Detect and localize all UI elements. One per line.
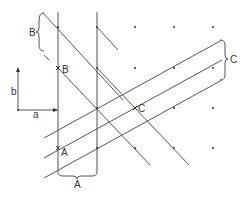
lattice-dot xyxy=(173,147,175,149)
label-axis-b: b xyxy=(11,86,17,97)
lattice-dot xyxy=(134,147,136,149)
label-a-bracket: A xyxy=(74,179,81,190)
lattice-dot xyxy=(96,67,98,69)
label-b-bracket: B xyxy=(29,27,36,38)
lattice-dot xyxy=(134,26,136,28)
lattice-dot xyxy=(173,107,175,109)
point-c-marker xyxy=(133,106,137,110)
ascending-line-2 xyxy=(44,60,222,158)
lattice-dot xyxy=(173,26,175,28)
descending-line-4 xyxy=(97,27,118,50)
bracket-a xyxy=(58,172,97,179)
lattice-diagram: B B A A C C a b xyxy=(0,0,248,197)
label-c-point: C xyxy=(138,103,145,114)
axis-origin-dot xyxy=(17,109,19,111)
lattice-dot xyxy=(212,147,214,149)
ascending-line-1 xyxy=(44,40,222,138)
lattice-dot xyxy=(173,67,175,69)
bracket-b xyxy=(36,13,44,51)
axis-b-arrowhead xyxy=(16,67,20,72)
lattice-dot xyxy=(212,107,214,109)
descending-line-2b xyxy=(58,68,150,165)
label-axis-a: a xyxy=(33,109,39,120)
lattice-dot xyxy=(96,107,98,109)
descending-line-2 xyxy=(44,55,49,60)
descending-line-1 xyxy=(43,13,123,100)
axis-a-arrowhead xyxy=(53,108,58,112)
ascending-line-3 xyxy=(44,80,222,178)
lattice-dot xyxy=(134,67,136,69)
lattice-dot xyxy=(212,67,214,69)
lattice-dot xyxy=(212,26,214,28)
descending-line-3 xyxy=(97,68,189,165)
label-a-point: A xyxy=(61,147,68,158)
lattice-dot xyxy=(96,147,98,149)
label-c-bracket: C xyxy=(230,54,237,65)
lattice-dot xyxy=(96,26,98,28)
label-b-point: B xyxy=(62,64,69,75)
lattice-dot xyxy=(57,26,59,28)
diagram-svg: B B A A C C a b xyxy=(0,0,248,197)
